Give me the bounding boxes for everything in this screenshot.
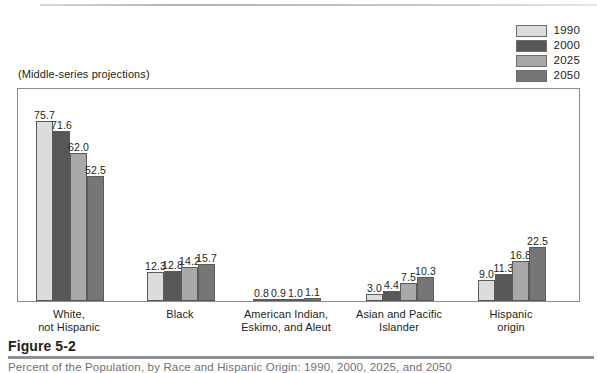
- chart-plot-frame: 75.771.662.052.512.312.814.215.70.80.91.…: [17, 88, 580, 302]
- bar-slot: 9.0: [478, 89, 495, 301]
- bar-value-label: 4.4: [384, 279, 399, 291]
- bar-2000-0: 71.6: [53, 131, 70, 301]
- bar-slot: 71.6: [53, 89, 70, 301]
- bar-2050-1: 15.7: [198, 264, 215, 301]
- bar-2000-3: 4.4: [383, 291, 400, 301]
- legend-swatch-2050: [516, 70, 547, 82]
- bar-slot: 1.0: [287, 89, 304, 301]
- bar-slot: 16.8: [512, 89, 529, 301]
- bar-value-label: 0.8: [254, 287, 269, 299]
- legend-label-1990: 1990: [554, 24, 580, 37]
- legend-label-2050: 2050: [554, 69, 580, 82]
- bar-value-label: 71.6: [51, 119, 72, 131]
- bar-2000-2: 0.9: [270, 299, 287, 301]
- figure-number: Figure 5-2: [8, 338, 76, 354]
- legend-swatch-2000: [516, 40, 547, 52]
- bar-1990-2: 0.8: [253, 299, 270, 301]
- chart-plot-area: 75.771.662.052.512.312.814.215.70.80.91.…: [18, 89, 579, 301]
- bar-group-3: 3.04.47.510.3: [366, 89, 434, 301]
- bar-value-label: 1.1: [305, 286, 320, 298]
- legend-item-2050: 2050: [516, 69, 580, 82]
- bar-value-label: 22.5: [527, 235, 548, 247]
- legend-item-2000: 2000: [516, 39, 580, 52]
- chart-legend: 1990200020252050: [516, 24, 580, 82]
- bar-slot: 0.8: [253, 89, 270, 301]
- bar-2025-4: 16.8: [512, 261, 529, 301]
- bar-1990-4: 9.0: [478, 280, 495, 301]
- bar-group-2: 0.80.91.01.1: [253, 89, 321, 301]
- bar-slot: 10.3: [417, 89, 434, 301]
- bar-group-4: 9.011.316.822.5: [478, 89, 546, 301]
- chart-subtitle: (Middle-series projections): [18, 68, 150, 80]
- bar-slot: 0.9: [270, 89, 287, 301]
- bar-2025-3: 7.5: [400, 283, 417, 301]
- bar-value-label: 11.3: [493, 262, 513, 274]
- bar-slot: 15.7: [198, 89, 215, 301]
- bar-slot: 14.2: [181, 89, 198, 301]
- bar-slot: 12.8: [164, 89, 181, 301]
- bar-value-label: 1.0: [288, 287, 303, 299]
- bar-value-label: 7.5: [401, 271, 416, 283]
- legend-label-2000: 2000: [554, 39, 580, 52]
- category-label-line: Hispanic: [441, 308, 581, 321]
- bar-slot: 22.5: [529, 89, 546, 301]
- bar-slot: 1.1: [304, 89, 321, 301]
- legend-item-2025: 2025: [516, 54, 580, 67]
- bar-value-label: 3.0: [367, 282, 382, 294]
- category-label-line: origin: [441, 321, 581, 334]
- figure-caption: Percent of the Population, by Race and H…: [8, 361, 452, 373]
- caption-divider-rule: [8, 356, 594, 359]
- bar-value-label: 52.5: [85, 164, 106, 176]
- bar-2025-1: 14.2: [181, 267, 198, 301]
- bar-value-label: 16.8: [510, 249, 531, 261]
- bar-value-label: 9.0: [479, 268, 494, 280]
- bar-slot: 4.4: [383, 89, 400, 301]
- legend-swatch-2025: [516, 55, 547, 67]
- bar-2050-0: 52.5: [87, 176, 104, 301]
- legend-item-1990: 1990: [516, 24, 580, 37]
- bar-2050-3: 10.3: [417, 277, 434, 302]
- legend-swatch-1990: [516, 25, 547, 37]
- bar-2025-2: 1.0: [287, 299, 304, 301]
- bar-value-label: 62.0: [68, 141, 89, 153]
- bar-slot: 52.5: [87, 89, 104, 301]
- legend-label-2025: 2025: [554, 54, 580, 67]
- bar-slot: 62.0: [70, 89, 87, 301]
- bar-value-label: 15.7: [196, 252, 217, 264]
- category-label-4: Hispanicorigin: [441, 308, 581, 333]
- bar-group-1: 12.312.814.215.7: [147, 89, 215, 301]
- bar-value-label: 10.3: [415, 265, 436, 277]
- bar-2050-2: 1.1: [304, 298, 321, 301]
- bar-group-0: 75.771.662.052.5: [36, 89, 104, 301]
- bar-1990-1: 12.3: [147, 272, 164, 301]
- category-label-line: not Hispanic: [0, 321, 139, 334]
- bar-value-label: 0.9: [271, 287, 286, 299]
- bar-2050-4: 22.5: [529, 247, 546, 301]
- bar-2000-4: 11.3: [495, 274, 512, 301]
- top-hairline-rule: [40, 4, 597, 6]
- bar-2000-1: 12.8: [164, 271, 181, 301]
- bar-slot: 11.3: [495, 89, 512, 301]
- bar-slot: 3.0: [366, 89, 383, 301]
- bar-1990-0: 75.7: [36, 121, 53, 301]
- bar-1990-3: 3.0: [366, 294, 383, 301]
